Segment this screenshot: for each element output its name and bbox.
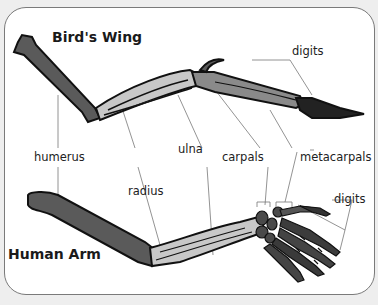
label-ulna: ulna <box>178 144 203 156</box>
title-human-arm: Human Arm <box>8 247 101 261</box>
label-humerus: humerus <box>34 152 85 164</box>
label-radius: radius <box>128 186 164 198</box>
label-carpals: carpals <box>222 152 264 164</box>
label-digits-top: digits <box>292 46 324 58</box>
label-metacarpals: metacarpals <box>300 152 371 164</box>
label-digits-bottom: digits <box>334 194 366 206</box>
title-bird-wing: Bird's Wing <box>52 30 142 44</box>
human-arm <box>28 192 340 282</box>
